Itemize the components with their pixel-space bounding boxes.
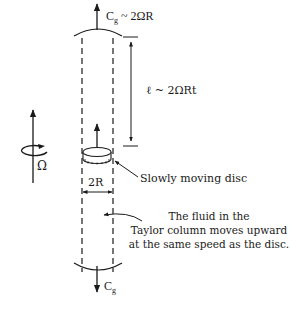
note-pointer (104, 214, 142, 221)
bottom-wave-front: Cg (74, 263, 122, 295)
rotation-arrowhead-icon (38, 144, 45, 149)
width-label: 2R (88, 176, 104, 189)
cg-top-label: Cg ~ 2ΩR (106, 9, 153, 25)
disc-label: Slowly moving disc (140, 172, 247, 185)
cg-bottom-label: Cg (104, 279, 116, 295)
length-dimension: ℓ ~ 2ΩRt (123, 37, 197, 146)
length-label: ℓ ~ 2ΩRt (146, 84, 197, 97)
omega-label: Ω (37, 159, 47, 173)
bottom-arc (74, 263, 122, 270)
width-dimension: 2R (83, 176, 112, 192)
disc-pointer (115, 161, 138, 177)
note-line-1: The fluid in the (168, 210, 249, 222)
rotation-ellipse-icon (22, 146, 47, 156)
disc: Slowly moving disc (83, 124, 247, 185)
top-wave-front: Cg ~ 2ΩR (74, 4, 153, 36)
note: The fluid in the Taylor column moves upw… (129, 210, 289, 250)
note-line-2: Taylor column moves upward (131, 224, 288, 236)
top-arc (74, 29, 122, 36)
rotation-axis: Ω (22, 110, 47, 183)
taylor-column-diagram: Ω Cg ~ 2ΩR ℓ ~ 2ΩRt Slowly moving disc 2… (0, 0, 291, 310)
note-line-3: at the same speed as the disc. (129, 238, 289, 250)
